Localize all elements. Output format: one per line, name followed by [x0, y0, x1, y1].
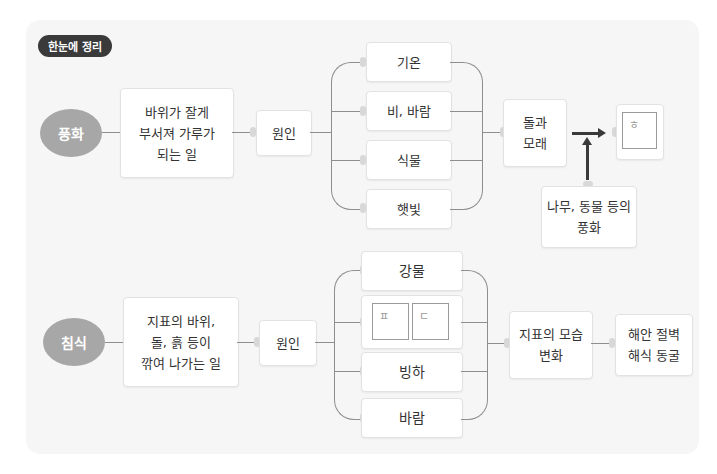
erosion-cause: 원인 [259, 320, 317, 366]
cause-item: 강물 [361, 251, 463, 291]
cause-item: 빙하 [361, 352, 463, 392]
cause-item: 바람 [361, 398, 463, 438]
cause-item: 햇빛 [366, 189, 452, 229]
weathering-cause: 원인 [256, 110, 312, 156]
cause-item: 기온 [366, 42, 452, 82]
erosion-oval: 침식 [43, 318, 105, 366]
weathering-definition: 바위가 잘게 부서져 가루가 되는 일 [120, 88, 234, 178]
erosion-definition: 지표의 바위, 돌, 흙 등이 깎여 나가는 일 [123, 297, 239, 387]
cause-item: 식물 [366, 140, 452, 180]
erosion-examples: 해안 절벽 해식 동굴 [615, 314, 693, 376]
cause-item: 비, 바람 [366, 91, 452, 131]
summary-badge: 한눈에 정리 [38, 35, 112, 57]
answer-blank[interactable]: ㅎ [622, 112, 657, 149]
weathering-extra: 나무, 동물 등의 풍화 [541, 186, 637, 248]
answer-blank[interactable]: ㅍ [372, 303, 409, 340]
weathering-result: 돌과 모래 [503, 99, 567, 167]
erosion-result: 지표의 모습 변화 [509, 311, 593, 379]
answer-blank[interactable]: ㄷ [412, 303, 449, 340]
weathering-oval: 풍화 [40, 109, 102, 157]
